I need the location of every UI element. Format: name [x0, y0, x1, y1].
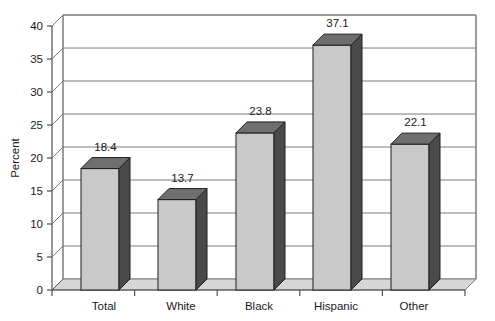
y-axis-tick-label: 40	[30, 20, 43, 32]
bar-total	[81, 158, 130, 290]
gridline-depth	[52, 246, 63, 257]
gridline-depth	[52, 213, 63, 224]
y-axis-title: Percent	[9, 137, 21, 177]
y-axis-tick-label: 5	[37, 251, 43, 263]
chart-canvas: 0510152025303540 TotalWhiteBlackHispanic…	[0, 0, 495, 321]
bar-side-face	[196, 189, 207, 290]
bar-side-face	[119, 158, 130, 290]
x-axis-category-label: Total	[92, 300, 116, 312]
gridline-depth	[52, 15, 63, 26]
bar-side-face	[351, 34, 362, 290]
gridline-depth	[52, 114, 63, 125]
bar-value-label: 13.7	[171, 172, 193, 184]
gridline-depth	[52, 147, 63, 158]
bar-value-label: 37.1	[326, 17, 348, 29]
bar-black	[236, 122, 285, 290]
bar-front-face	[81, 169, 119, 290]
bar-chart-figure: 0510152025303540 TotalWhiteBlackHispanic…	[0, 0, 495, 321]
x-axis-category-label: Other	[400, 300, 429, 312]
gridline-depth	[52, 81, 63, 92]
y-axis-tick-label: 30	[30, 86, 43, 98]
y-axis-group: 0510152025303540	[30, 20, 52, 296]
axis-title-group: Percent	[9, 137, 21, 177]
y-axis-tick-label: 35	[30, 53, 43, 65]
y-axis-tick-label: 25	[30, 119, 43, 131]
bar-front-face	[391, 144, 429, 290]
bar-front-face	[158, 200, 196, 290]
bar-value-label: 18.4	[94, 141, 117, 153]
x-axis-group: TotalWhiteBlackHispanicOther	[52, 290, 465, 312]
x-axis-category-label: White	[166, 300, 195, 312]
y-axis-tick-label: 0	[37, 284, 43, 296]
bar-other	[391, 133, 440, 290]
bar-white	[158, 189, 207, 290]
y-axis-tick-label: 15	[30, 185, 43, 197]
y-axis-tick-label: 10	[30, 218, 43, 230]
bar-hispanic	[313, 34, 362, 290]
bar-value-label: 23.8	[249, 105, 271, 117]
bar-side-face	[274, 122, 285, 290]
bar-front-face	[313, 45, 351, 290]
bar-front-face	[236, 133, 274, 290]
bar-value-label: 22.1	[404, 116, 426, 128]
gridline-depth	[52, 48, 63, 59]
bar-side-face	[429, 133, 440, 290]
gridline-depth	[52, 180, 63, 191]
x-axis-category-label: Black	[245, 300, 273, 312]
y-axis-tick-label: 20	[30, 152, 43, 164]
x-axis-category-label: Hispanic	[314, 300, 358, 312]
